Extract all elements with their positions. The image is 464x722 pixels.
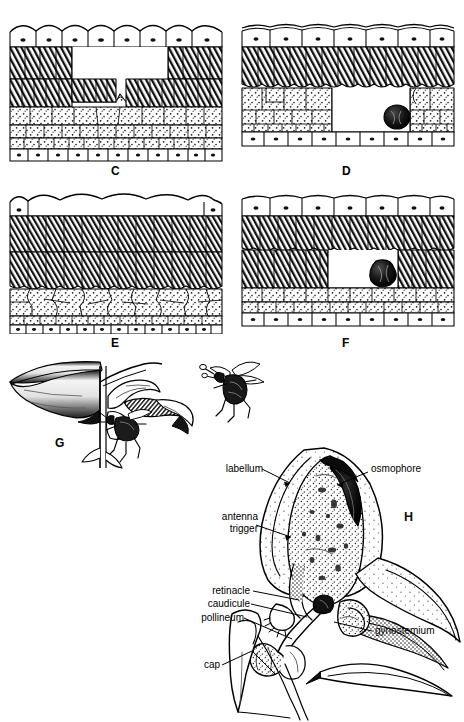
panel-letter-f: F [342,336,349,350]
panel-c [8,14,226,162]
panel-e [8,186,226,334]
cropped-caption: morphology of the osmophore and pollinat… [0,0,464,7]
label-antenna-trigger-line1: antenna [190,511,258,523]
label-pollineum: pollineum [182,612,244,624]
label-osmophore: osmophore [371,463,421,475]
label-gynostemium: gynostemium [375,625,434,637]
panel-letter-h: H [404,510,413,524]
panel-c-drawing [8,14,226,162]
label-retinacle: retinacle [190,585,250,597]
panel-letter-g: G [55,436,64,450]
panel-d-drawing [240,14,456,162]
panel-e-drawing [8,186,226,334]
panel-f-drawing [240,186,456,334]
panel-d [240,14,456,162]
panel-h [228,446,464,722]
figure-plate: morphology of the osmophore and pollinat… [0,0,464,722]
label-caudicule: caudicule [186,598,250,610]
panel-f [240,186,456,334]
panel-letter-e: E [111,336,119,350]
panel-letter-c: C [111,164,120,178]
label-labellum: labellum [205,463,263,475]
panel-h-drawing [228,446,464,722]
panel-letter-d: D [342,164,351,178]
label-antenna-trigger-line2: trigger [190,523,258,535]
label-cap: cap [190,659,220,671]
